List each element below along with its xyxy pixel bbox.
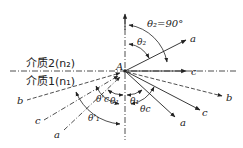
ray-b-reflected (127, 72, 222, 96)
theta2-90-label: θ₂=90° (147, 18, 183, 29)
ray-a-refracted-label: a (190, 33, 196, 44)
theta1-reflection-arc (127, 90, 142, 95)
theta1-reflection-label: θ₁ (130, 96, 139, 106)
ray-a-incident-label: a (54, 129, 60, 140)
ray-c-refracted-label: c (191, 66, 197, 77)
ray-c-incident-label: c (35, 115, 41, 126)
refraction-diagram: 介质2(n₂) 介质1(n₁) A a c θ₂=90° θ₂ b c a b … (0, 0, 243, 148)
theta-prime-1-label: θ'₁ (88, 113, 100, 123)
theta1-incidence-label: θ₁ (110, 96, 119, 106)
point-a-label: A (115, 61, 123, 72)
ray-a-reflected-label: a (180, 117, 186, 128)
medium-1-label: 介质1(n₁) (26, 75, 75, 88)
theta1-incidence-arc (108, 90, 123, 95)
medium-2-label: 介质2(n₂) (26, 57, 75, 70)
ray-b-incident-label: b (17, 95, 23, 106)
ray-b-reflected-label: b (226, 92, 232, 103)
theta2-label: θ₂ (137, 37, 146, 47)
theta-prime-c-label: θ'c (96, 94, 109, 104)
theta-c-label: θc (140, 104, 150, 114)
ray-a-refracted (125, 40, 186, 71)
ray-c-reflected-label: c (202, 107, 208, 118)
